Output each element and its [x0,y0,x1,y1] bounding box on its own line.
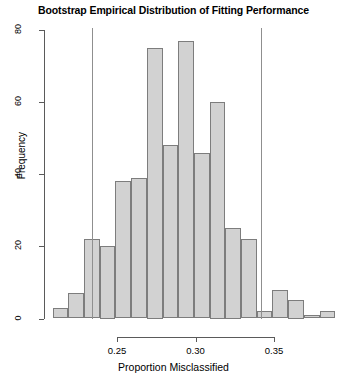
histogram-bar [178,41,194,319]
x-axis-tick-label: 0.35 [254,345,294,356]
histogram-bars [0,0,347,385]
x-axis-label: Proportion Misclassified [0,361,347,373]
chart-container: Bootstrap Empirical Distribution of Fitt… [0,0,347,385]
histogram-bar [194,153,210,319]
histogram-bar [115,181,131,318]
y-axis-tick-label: 20 [13,230,23,260]
histogram-bar [225,228,241,318]
y-axis-tick [39,174,44,175]
histogram-bar [257,311,273,318]
y-axis-tick-label: 0 [13,303,23,333]
histogram-bar [288,300,304,318]
y-axis-tick-label: 40 [13,158,23,188]
histogram-bar [210,102,226,318]
histogram-bar [53,308,69,319]
upper-confidence-bound [261,28,262,319]
y-axis-tick [39,102,44,103]
x-axis-tick [196,337,197,342]
plot-area: Frequency Proportion Misclassified 02040… [0,0,347,385]
y-axis-tick [39,30,44,31]
y-axis-tick [39,246,44,247]
x-axis-tick-label: 0.25 [97,345,137,356]
histogram-bar [163,145,179,318]
x-axis-tick [274,337,275,342]
y-axis-tick-label: 80 [13,14,23,44]
y-axis-tick-label: 60 [13,86,23,116]
histogram-bar [304,315,320,319]
histogram-bar [100,246,116,318]
x-axis-tick [117,337,118,342]
histogram-bar [241,239,257,318]
histogram-bar [68,293,84,318]
x-axis-tick-label: 0.30 [176,345,216,356]
histogram-bar [272,290,288,319]
histogram-bar [147,48,163,318]
histogram-bar [131,178,147,319]
y-axis-tick [39,319,44,320]
y-axis-line [44,30,45,319]
histogram-bar [320,311,336,318]
lower-confidence-bound [92,28,93,319]
